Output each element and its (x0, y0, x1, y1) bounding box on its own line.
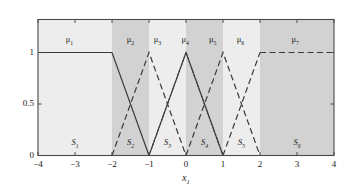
mu-label-2: μ2 (127, 34, 134, 46)
chart-canvas (0, 0, 356, 185)
x-tick-label-2: −2 (107, 159, 117, 169)
region-label-6: S6 (293, 137, 300, 149)
mu-label-5: μ5 (209, 34, 216, 46)
mu-label-6: μ6 (237, 34, 244, 46)
figure-root: 00.51 −4−3−2−101234 μ1μ2μ3μ4μ5μ6μ7 S1S2S… (0, 0, 356, 185)
x-tick-label-0: −4 (33, 159, 43, 169)
mu-label-7: μ7 (291, 34, 298, 46)
region-band-4 (186, 20, 223, 156)
x-tick-label-5: 1 (221, 159, 226, 169)
mu-label-3: μ3 (154, 34, 161, 46)
y-tick-label-1: 0.5 (23, 98, 34, 108)
mu-label-4: μ4 (182, 34, 189, 46)
x-tick-label-1: −3 (70, 159, 80, 169)
x-tick-label-8: 4 (332, 159, 337, 169)
region-label-2: S2 (127, 137, 134, 149)
region-label-4: S4 (201, 137, 208, 149)
mu-label-1: μ1 (66, 34, 73, 46)
region-label-3: S3 (164, 137, 171, 149)
y-tick-label-2: 1 (30, 47, 35, 57)
x-axis-title: x1 (182, 173, 189, 185)
region-label-5: S5 (238, 137, 245, 149)
region-band-1 (38, 20, 112, 156)
region-label-1: S1 (71, 137, 78, 149)
x-tick-label-7: 3 (295, 159, 300, 169)
x-tick-label-3: −1 (144, 159, 154, 169)
x-tick-label-6: 2 (258, 159, 263, 169)
x-tick-label-4: 0 (184, 159, 189, 169)
